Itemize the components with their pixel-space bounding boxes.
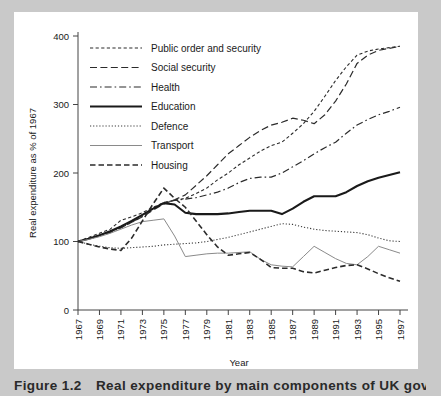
x-tick-label: 1973 <box>137 319 148 340</box>
y-tick-label: 0 <box>64 305 69 316</box>
x-tick-label: 1975 <box>158 319 169 340</box>
series-line-5 <box>78 219 400 267</box>
figure-card: 0100200300400196719691971197319751977197… <box>14 12 418 369</box>
series-line-6 <box>78 188 400 281</box>
y-tick-label: 300 <box>53 99 69 110</box>
x-tick-label: 1969 <box>94 319 105 340</box>
x-tick-label: 1987 <box>287 319 298 340</box>
x-tick-label: 1997 <box>395 319 406 340</box>
legend-label-3: Education <box>151 101 195 112</box>
x-tick-label: 1993 <box>352 319 363 340</box>
caption-number: Figure 1.2 <box>14 378 82 393</box>
x-tick-label: 1991 <box>330 319 341 340</box>
x-tick-label: 1981 <box>223 319 234 340</box>
y-tick-label: 200 <box>53 168 69 179</box>
legend-label-1: Social security <box>151 62 215 73</box>
figure-container: 0100200300400196719691971197319751977197… <box>0 0 441 396</box>
y-tick-label: 400 <box>53 31 69 42</box>
legend-label-0: Public order and security <box>151 43 261 54</box>
line-chart: 0100200300400196719691971197319751977197… <box>14 12 418 369</box>
figure-caption: Figure 1.2 Real expenditure by main comp… <box>14 378 426 396</box>
x-tick-label: 1995 <box>373 319 384 340</box>
x-tick-label: 1989 <box>309 319 320 340</box>
x-tick-label: 1983 <box>244 319 255 340</box>
caption-text: Real expenditure by main components of U… <box>96 378 426 393</box>
y-axis-title: Real expenditure as % of 1967 <box>27 108 38 238</box>
series-line-3 <box>78 172 400 241</box>
x-tick-label: 1985 <box>266 319 277 340</box>
x-tick-label: 1967 <box>73 319 84 340</box>
y-tick-label: 100 <box>53 236 69 247</box>
x-tick-label: 1977 <box>180 319 191 340</box>
x-tick-label: 1971 <box>115 319 126 340</box>
legend-label-5: Transport <box>151 140 194 151</box>
x-axis-title: Year <box>229 357 248 368</box>
legend-label-2: Health <box>151 82 180 93</box>
legend-label-4: Defence <box>151 121 189 132</box>
legend-label-6: Housing <box>151 160 188 171</box>
x-tick-label: 1979 <box>201 319 212 340</box>
series-line-2 <box>78 107 400 241</box>
